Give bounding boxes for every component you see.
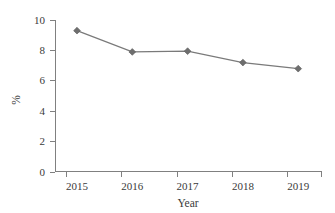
y-tick-label-2: 2 [40,135,46,147]
y-tick-label-0: 0 [40,166,46,178]
y-axis-title: % [10,95,22,105]
data-point-2018 [240,59,247,66]
x-tick-label-2015: 2015 [66,180,89,192]
x-tick-label-2018: 2018 [232,180,255,192]
y-tick-label-8: 8 [40,44,46,56]
x-tick-label-2017: 2017 [177,180,200,192]
x-tick-label-2016: 2016 [121,180,144,192]
y-tick-label-10: 10 [34,14,46,26]
y-axis-ticks [50,20,55,172]
x-axis-title: Year [177,197,198,209]
x-tick-label-2019: 2019 [287,180,310,192]
y-tick-label-6: 6 [40,74,46,86]
data-point-2017 [184,48,191,55]
y-tick-label-4: 4 [40,105,46,117]
data-point-2015 [74,27,81,34]
x-axis-ticks [67,172,322,177]
data-point-2016 [129,49,136,56]
chart-canvas: 0 2 4 6 8 10 % 2015 2016 2017 2018 2019 … [0,0,335,213]
line-chart: 0 2 4 6 8 10 % 2015 2016 2017 2018 2019 … [0,0,335,213]
data-point-2019 [295,65,302,72]
